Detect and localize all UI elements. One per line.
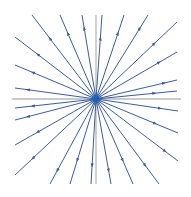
direction-arrow-icon	[117, 33, 118, 35]
direction-arrow-icon	[158, 62, 160, 63]
trajectory-line	[82, 15, 96, 99]
trajectory-line	[96, 15, 124, 99]
direction-arrow-icon	[38, 54, 40, 55]
trajectory-line	[96, 80, 177, 99]
trajectory-line	[96, 15, 102, 99]
direction-arrow-icon	[144, 164, 145, 166]
trajectory-line	[15, 99, 96, 175]
trajectory-line	[96, 99, 111, 184]
trajectory-line	[15, 99, 96, 120]
direction-arrow-icon	[57, 169, 58, 171]
phase-portrait-diagram	[0, 0, 191, 197]
trajectory-line	[15, 99, 96, 108]
star-node-plot	[0, 0, 191, 197]
direction-arrow-icon	[122, 159, 123, 161]
direction-arrow-icon	[163, 150, 165, 151]
origin-node	[89, 92, 103, 106]
direction-arrow-icon	[38, 131, 40, 132]
direction-arrow-icon	[33, 72, 35, 73]
direction-arrow-icon	[153, 44, 155, 46]
direction-arrow-icon	[153, 123, 155, 124]
direction-arrow-icon	[68, 33, 69, 35]
direction-arrow-icon	[77, 159, 78, 161]
trajectory-line	[96, 99, 178, 161]
trajectory-line	[96, 99, 178, 111]
direction-arrow-icon	[50, 39, 51, 41]
origin-point	[94, 97, 99, 102]
direction-arrow-icon	[33, 157, 35, 159]
direction-arrow-icon	[139, 28, 140, 30]
